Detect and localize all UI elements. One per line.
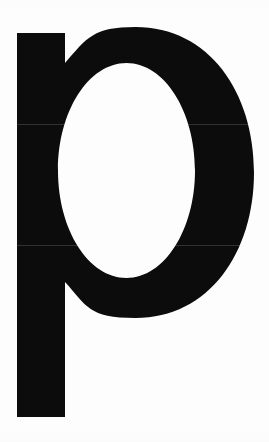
glyph-outline-path bbox=[17, 27, 254, 417]
image-canvas: p bbox=[0, 0, 269, 442]
letter-p-glyph bbox=[0, 0, 269, 442]
